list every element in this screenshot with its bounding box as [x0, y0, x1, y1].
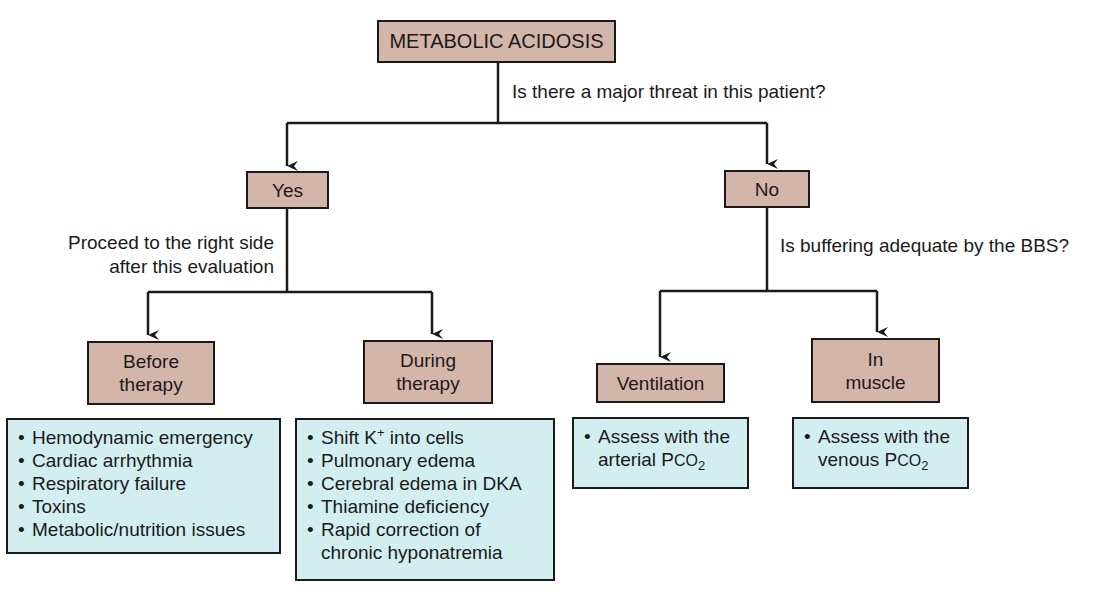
ventilation-label: Ventilation [617, 372, 705, 395]
bullet: • [18, 518, 32, 541]
list-item-text: Rapid correction ofchronic hyponatremia [321, 518, 503, 564]
list-item-text: Toxins [32, 495, 86, 518]
shift-k-text: Shift K [321, 427, 377, 448]
root-node-label: METABOLIC ACIDOSIS [389, 30, 603, 53]
list-item-text: Assess with thevenous PCO2 [818, 425, 950, 472]
list-item-text: Assess with thearterial PCO2 [598, 425, 730, 472]
bullet: • [307, 426, 321, 449]
yes-node-label: Yes [272, 179, 303, 202]
list-item: •Pulmonary edema [307, 449, 543, 472]
bullet: • [18, 449, 32, 472]
list-item: •Cardiac arrhythmia [18, 449, 269, 472]
rapid-correction-line-2: chronic hyponatremia [321, 541, 503, 564]
before-therapy-node: Before therapy [87, 341, 215, 405]
in-muscle-node: In muscle [811, 338, 940, 403]
assess-line-2: arterial PCO2 [598, 448, 730, 472]
assess-line-1: Assess with the [818, 425, 950, 448]
list-item: •Shift K+ into cells [307, 426, 543, 449]
flowchart-canvas: METABOLIC ACIDOSIS Is there a major thre… [0, 0, 1109, 595]
list-item-text: Shift K+ into cells [321, 426, 464, 449]
subscript-2: 2 [921, 458, 928, 473]
during-therapy-list: •Shift K+ into cells •Pulmonary edema •C… [295, 418, 555, 581]
yes-node: Yes [246, 171, 329, 209]
no-node: No [724, 170, 810, 208]
list-item-text: Respiratory failure [32, 472, 186, 495]
list-item: •Rapid correction ofchronic hyponatremia [307, 518, 543, 564]
before-therapy-label-line-2: therapy [119, 373, 182, 396]
rapid-correction-line-1: Rapid correction of [321, 518, 503, 541]
before-therapy-list: •Hemodynamic emergency •Cardiac arrhythm… [6, 418, 281, 554]
during-therapy-node: During therapy [363, 340, 493, 404]
list-item-text: Pulmonary edema [321, 449, 475, 472]
bullet: • [307, 495, 321, 518]
co-text: CO [897, 452, 921, 469]
list-item: •Assess with thevenous PCO2 [804, 425, 957, 472]
into-cells-text: into cells [385, 427, 464, 448]
arterial-p-text: arterial P [598, 449, 674, 470]
list-item-text: Cardiac arrhythmia [32, 449, 193, 472]
co-text: CO [674, 452, 698, 469]
list-item: •Hemodynamic emergency [18, 426, 269, 449]
bullet: • [18, 426, 32, 449]
in-muscle-label-line-2: muscle [845, 371, 905, 394]
list-item: •Thiamine deficiency [307, 495, 543, 518]
ventilation-list: •Assess with thearterial PCO2 [572, 417, 749, 489]
bullet: • [307, 449, 321, 472]
list-item-text: Metabolic/nutrition issues [32, 518, 245, 541]
bullet: • [307, 472, 321, 495]
root-question: Is there a major threat in this patient? [512, 80, 826, 104]
root-node-metabolic-acidosis: METABOLIC ACIDOSIS [377, 20, 616, 63]
yes-branch-note: Proceed to the right side after this eva… [48, 231, 274, 279]
bullet: • [307, 518, 321, 564]
bullet: • [18, 472, 32, 495]
list-item-text: Thiamine deficiency [321, 495, 489, 518]
no-node-label: No [755, 178, 779, 201]
list-item: •Respiratory failure [18, 472, 269, 495]
before-therapy-label-line-1: Before [123, 350, 179, 373]
no-branch-question: Is buffering adequate by the BBS? [780, 234, 1069, 258]
list-item-text: Cerebral edema in DKA [321, 472, 522, 495]
list-item: •Metabolic/nutrition issues [18, 518, 269, 541]
bullet: • [804, 425, 818, 472]
list-item: •Assess with thearterial PCO2 [584, 425, 737, 472]
bullet: • [584, 425, 598, 472]
assess-line-1: Assess with the [598, 425, 730, 448]
potassium-charge: + [377, 425, 385, 440]
subscript-2: 2 [698, 458, 705, 473]
assess-line-2: venous PCO2 [818, 448, 950, 472]
list-item: •Cerebral edema in DKA [307, 472, 543, 495]
during-therapy-label-line-1: During [400, 349, 456, 372]
list-item-text: Hemodynamic emergency [32, 426, 253, 449]
in-muscle-label-line-1: In [868, 348, 884, 371]
yes-note-line-2: after this evaluation [48, 255, 274, 279]
in-muscle-list: •Assess with thevenous PCO2 [792, 417, 969, 489]
ventilation-node: Ventilation [596, 363, 725, 403]
venous-p-text: venous P [818, 449, 897, 470]
bullet: • [18, 495, 32, 518]
list-item: •Toxins [18, 495, 269, 518]
during-therapy-label-line-2: therapy [396, 372, 459, 395]
yes-note-line-1: Proceed to the right side [48, 231, 274, 255]
